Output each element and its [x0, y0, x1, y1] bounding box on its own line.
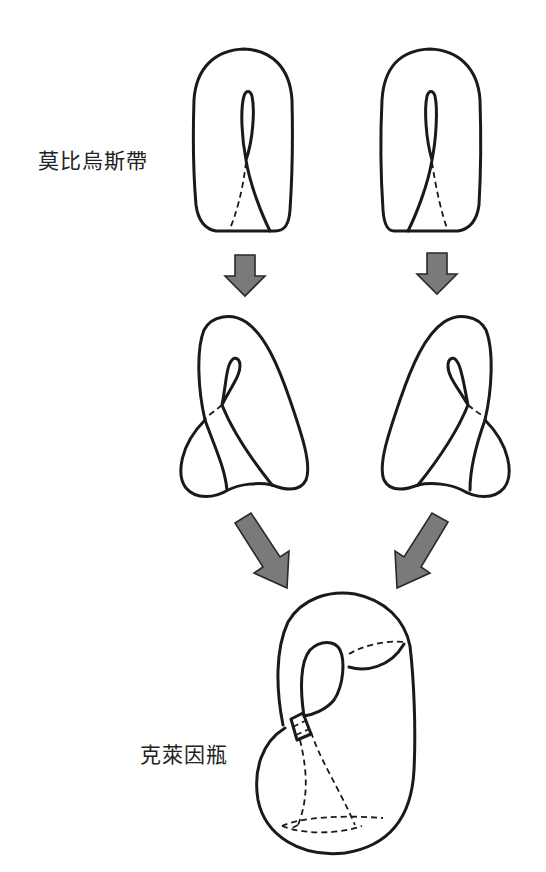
- arrow-down-right-icon: [417, 253, 457, 294]
- arrow-diag-right-icon: [395, 513, 448, 588]
- arrow-diag-left-icon: [235, 513, 289, 588]
- arrow-down-left-icon: [225, 255, 265, 296]
- deformed-strip-left: [181, 317, 308, 497]
- diagram-drawing: [0, 0, 546, 872]
- klein-bottle: [257, 593, 415, 854]
- mobius-strip-left: [193, 49, 292, 231]
- deformed-strip-right: [382, 317, 509, 497]
- diagram-canvas: 莫比烏斯帶 克萊因瓶: [0, 0, 546, 872]
- mobius-strip-right: [381, 49, 481, 231]
